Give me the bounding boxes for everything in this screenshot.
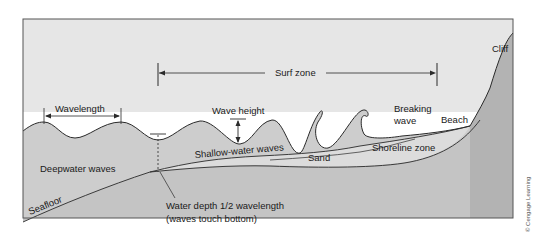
shoreline-zone-label: Shoreline zone <box>372 142 435 153</box>
sky-area <box>23 19 513 112</box>
breaking-wave-label-line1: Breaking <box>394 103 432 114</box>
deepwater-waves-label: Deepwater waves <box>40 163 116 174</box>
water-depth-label-line1: Water depth 1/2 wavelength <box>166 200 284 211</box>
beach-label: Beach <box>441 114 468 125</box>
wavelength-label: Wavelength <box>55 103 105 114</box>
copyright-credit: © Cengage Learning <box>525 177 531 232</box>
wave-diagram: Surf zone Wavelength Wave height Water d… <box>0 0 553 252</box>
breaking-wave-label-line2: wave <box>393 115 416 126</box>
cliff-label: Cliff <box>492 43 509 54</box>
surf-zone-label: Surf zone <box>275 67 316 78</box>
water-depth-label-line2: (waves touch bottom) <box>166 213 257 224</box>
sand-label: Sand <box>308 152 330 163</box>
wave-height-label: Wave height <box>212 105 265 116</box>
wave-height-indicator <box>230 119 246 143</box>
